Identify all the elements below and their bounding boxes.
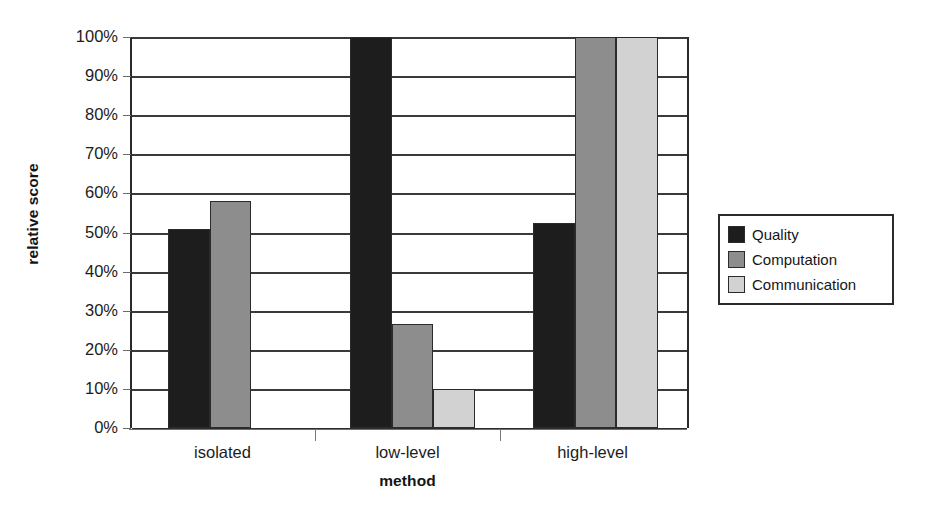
- legend-label: Communication: [752, 276, 856, 293]
- y-axis-tick-label: 30%: [52, 302, 118, 319]
- x-axis-line: [129, 429, 687, 430]
- legend-swatch-icon: [728, 276, 745, 293]
- bar-low-level-quality: [350, 37, 392, 428]
- bar-high-level-quality: [533, 223, 575, 428]
- legend-label: Quality: [752, 226, 799, 243]
- bar-isolated-computation: [210, 201, 252, 428]
- y-axis-tickmark: [123, 76, 131, 77]
- x-axis-tick-label-isolated: isolated: [130, 443, 315, 462]
- legend-label: Computation: [752, 251, 837, 268]
- x-axis-group-tick: [315, 429, 316, 441]
- y-axis-tick-label: 50%: [52, 224, 118, 241]
- y-axis-title: relative score: [24, 134, 42, 294]
- plot-area: [130, 37, 689, 428]
- y-axis-tick-label: 100%: [52, 28, 118, 45]
- y-axis-tickmark: [123, 233, 131, 234]
- y-axis-tickmark: [123, 154, 131, 155]
- y-axis-tickmark: [123, 193, 131, 194]
- y-axis-tick-label: 20%: [52, 341, 118, 358]
- y-axis-tick-label: 60%: [52, 184, 118, 201]
- legend-swatch-icon: [728, 226, 745, 243]
- legend-item-computation: Computation: [728, 247, 885, 272]
- y-axis-tick-label: 70%: [52, 145, 118, 162]
- y-axis-tick-label: 90%: [52, 67, 118, 84]
- chart-legend: QualityComputationCommunication: [718, 214, 894, 305]
- bar-low-level-communication: [433, 389, 475, 428]
- x-axis-tick-label-high-level: high-level: [500, 443, 685, 462]
- y-axis-tick-label: 0%: [52, 419, 118, 436]
- y-axis-tickmark: [123, 37, 131, 38]
- y-axis-tickmark: [123, 272, 131, 273]
- y-axis-tick-label: 10%: [52, 380, 118, 397]
- x-axis-title: method: [130, 472, 685, 490]
- legend-item-quality: Quality: [728, 222, 885, 247]
- x-axis-tick-label-low-level: low-level: [315, 443, 500, 462]
- x-axis-group-tick: [500, 429, 501, 441]
- y-axis-tickmark: [123, 115, 131, 116]
- y-axis-tick-label: 40%: [52, 263, 118, 280]
- y-axis-tickmark: [123, 350, 131, 351]
- y-axis-tickmark: [123, 389, 131, 390]
- bar-low-level-computation: [392, 324, 434, 428]
- y-axis-tickmark: [123, 311, 131, 312]
- y-axis-tick-labels: 0%10%20%30%40%50%60%70%80%90%100%: [46, 0, 118, 512]
- bar-chart: relative score 0%10%20%30%40%50%60%70%80…: [0, 0, 937, 512]
- bar-high-level-communication: [616, 37, 658, 428]
- legend-item-communication: Communication: [728, 272, 885, 297]
- legend-swatch-icon: [728, 251, 745, 268]
- bar-isolated-quality: [168, 229, 210, 428]
- y-axis-tick-label: 80%: [52, 106, 118, 123]
- bar-high-level-computation: [575, 37, 617, 428]
